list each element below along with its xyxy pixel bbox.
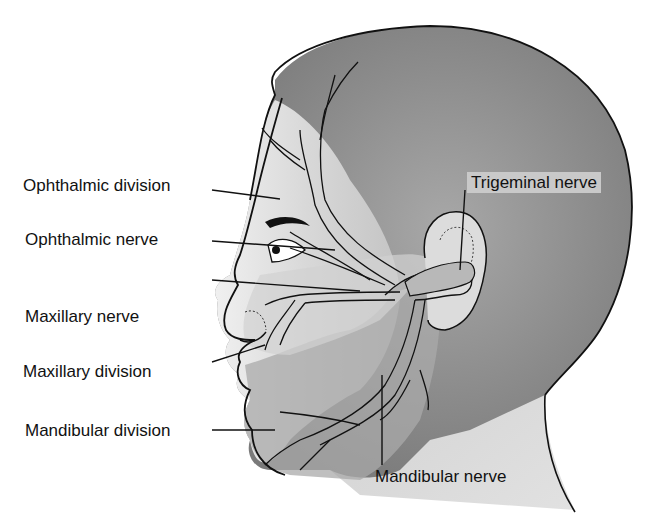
label-maxillary-division: Maxillary division xyxy=(23,363,151,380)
label-ophthalmic-division: Ophthalmic division xyxy=(23,177,170,194)
trigeminal-diagram xyxy=(0,0,653,531)
pupil xyxy=(272,246,280,254)
label-mandibular-nerve: Mandibular nerve xyxy=(375,468,506,485)
label-ophthalmic-nerve: Ophthalmic nerve xyxy=(25,231,158,248)
label-trigeminal-nerve: Trigeminal nerve xyxy=(467,172,601,193)
label-maxillary-nerve: Maxillary nerve xyxy=(25,308,139,325)
label-mandibular-division: Mandibular division xyxy=(25,422,171,439)
